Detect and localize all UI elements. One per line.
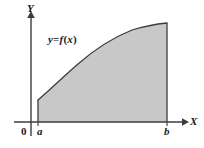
upper-bound-label: b <box>164 126 170 137</box>
function-equation-label: y=f(x) <box>48 34 77 45</box>
x-axis-label: X <box>190 116 197 127</box>
figure-canvas <box>0 0 204 148</box>
y-axis-label: Y <box>27 3 34 14</box>
origin-label: 0 <box>21 126 27 137</box>
lower-bound-label: a <box>37 126 43 137</box>
area-under-curve-figure: Y X 0 a b y=f(x) <box>0 0 204 148</box>
equation-close-paren: ) <box>73 33 77 45</box>
x-axis-arrow-icon <box>182 118 189 126</box>
